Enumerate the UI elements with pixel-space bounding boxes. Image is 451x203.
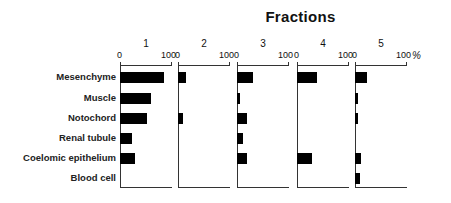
bottom-axis xyxy=(297,187,349,188)
bar xyxy=(178,113,183,124)
x-axis xyxy=(178,65,230,66)
y-axis xyxy=(120,65,121,187)
bar xyxy=(120,133,132,144)
bar xyxy=(297,72,317,83)
x-axis xyxy=(355,65,407,66)
panel-1: 10100 xyxy=(120,38,172,190)
bar xyxy=(355,153,361,164)
panel-3: 30100 xyxy=(237,38,289,190)
bar xyxy=(355,72,367,83)
tick-hundred: 100 xyxy=(338,50,353,60)
row-label: Renal tubule xyxy=(59,132,116,143)
bar xyxy=(355,93,358,104)
y-axis xyxy=(355,65,356,187)
tick-hundred: 100 xyxy=(219,50,234,60)
x-axis xyxy=(297,65,349,66)
row-label: Mesenchyme xyxy=(56,71,116,82)
bar xyxy=(237,93,240,104)
y-axis xyxy=(297,65,298,187)
bar xyxy=(178,72,186,83)
bottom-axis xyxy=(355,187,407,188)
bar xyxy=(237,133,243,144)
y-axis xyxy=(178,65,179,187)
bottom-axis xyxy=(120,187,172,188)
chart-title: Fractions xyxy=(0,8,451,25)
row-label: Notochord xyxy=(68,112,116,123)
bar xyxy=(355,173,360,184)
panel-number: 2 xyxy=(178,38,230,49)
row-label: Muscle xyxy=(84,92,116,103)
tick-zero: 0 xyxy=(294,50,299,60)
y-axis xyxy=(237,65,238,187)
bar xyxy=(237,153,247,164)
panel-5: 50100 xyxy=(355,38,407,190)
bar xyxy=(237,72,253,83)
bottom-axis xyxy=(237,187,289,188)
bar xyxy=(120,72,164,83)
bar xyxy=(237,113,247,124)
bottom-axis xyxy=(178,187,230,188)
panel-4: 40100 xyxy=(297,38,349,190)
unit-label: % xyxy=(412,50,421,61)
bar xyxy=(120,93,151,104)
tick-zero: 0 xyxy=(234,50,239,60)
bar xyxy=(120,113,147,124)
tick-hundred: 100 xyxy=(161,50,176,60)
bar xyxy=(355,113,358,124)
tick-zero: 0 xyxy=(175,50,180,60)
x-axis xyxy=(120,65,172,66)
row-label: Blood cell xyxy=(71,172,116,183)
tick-hundred: 100 xyxy=(278,50,293,60)
bar xyxy=(120,153,135,164)
tick-zero: 0 xyxy=(352,50,357,60)
tick-zero: 0 xyxy=(117,50,122,60)
row-label: Coelomic epithelium xyxy=(23,152,116,163)
tick-hundred: 100 xyxy=(396,50,411,60)
panel-number: 4 xyxy=(297,38,349,49)
bar xyxy=(297,153,312,164)
panel-2: 20100 xyxy=(178,38,230,190)
x-axis xyxy=(237,65,289,66)
panel-number: 5 xyxy=(355,38,407,49)
panel-number: 1 xyxy=(120,38,172,49)
panel-number: 3 xyxy=(237,38,289,49)
